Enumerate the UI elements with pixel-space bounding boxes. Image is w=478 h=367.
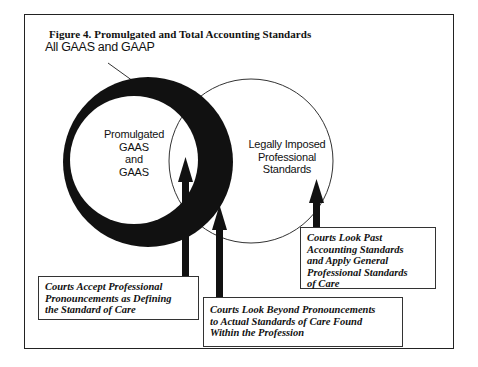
callout-courts-look-past: Courts Look Past Accounting Standards an…	[300, 227, 436, 289]
promulgated-label-line: and	[94, 153, 174, 166]
promulgated-gaas-label: Promulgated GAAS and GAAS	[94, 128, 174, 178]
callout-line: Courts Accept Professional	[45, 281, 192, 293]
callout-line: to Actual Standards of Care Found	[210, 316, 396, 328]
callout-courts-look-beyond: Courts Look Beyond Pronouncements to Act…	[203, 297, 403, 347]
callout-courts-accept: Courts Accept Professional Pronouncement…	[38, 276, 199, 320]
promulgated-label-line: Promulgated	[94, 128, 174, 141]
callout-line: Within the Profession	[210, 327, 396, 339]
legally-imposed-label-line: Standards	[239, 163, 335, 176]
callout-line: of Care	[307, 278, 429, 290]
legally-imposed-label-line: Professional	[239, 151, 335, 164]
legally-imposed-label-line: Legally Imposed	[239, 138, 335, 151]
promulgated-label-line: GAAS	[94, 166, 174, 179]
callout-line: Pronouncements as Defining	[45, 293, 192, 305]
callout-line: Courts Look Past	[307, 232, 429, 244]
callout-line: the Standard of Care	[45, 304, 192, 316]
arrow-up-icon	[309, 179, 324, 228]
callout-line: Professional Standards	[307, 267, 429, 279]
callout-line: Accounting Standards	[307, 244, 429, 256]
callout-line: and Apply General	[307, 255, 429, 267]
all-gaas-pointer-line	[108, 63, 133, 81]
promulgated-label-line: GAAS	[94, 141, 174, 154]
callout-line: Courts Look Beyond Pronouncements	[210, 304, 396, 316]
all-gaas-gaap-label: All GAAS and GAAP	[45, 41, 155, 53]
arrow-up-icon	[212, 205, 227, 298]
legally-imposed-label: Legally Imposed Professional Standards	[239, 138, 335, 176]
